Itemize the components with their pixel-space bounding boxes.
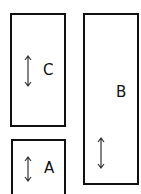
vertical-double-arrow-icon [97,137,105,169]
box-label: C [43,63,53,78]
box-b: B [83,13,139,185]
box-label: B [116,85,126,100]
box-c: C [10,13,66,127]
box-label: A [44,161,54,176]
box-a: A [11,139,66,194]
vertical-double-arrow-icon [24,55,32,87]
vertical-double-arrow-icon [24,156,32,182]
